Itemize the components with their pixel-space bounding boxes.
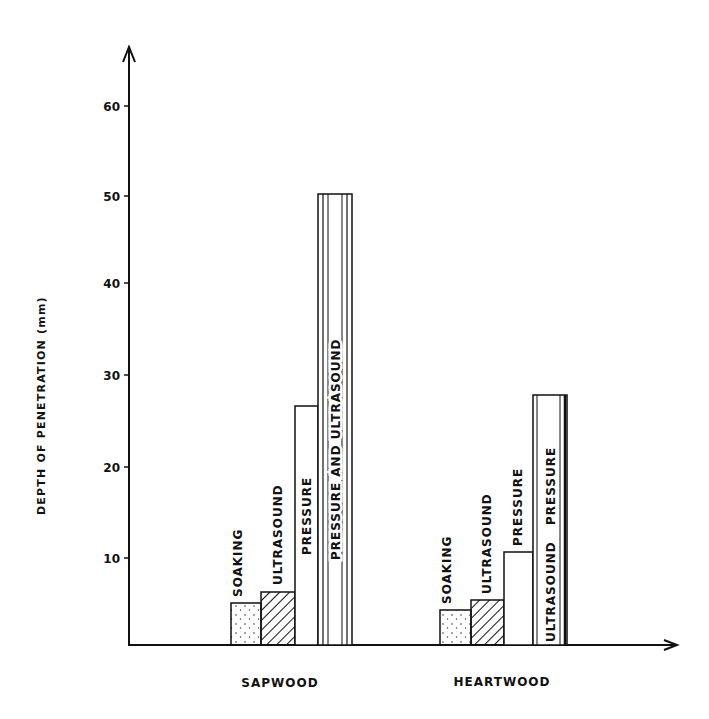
y-tick-label: 30 [103, 369, 120, 383]
bar-label: SOAKING [440, 536, 454, 604]
group-sapwood: SOAKING ULTRASOUND PRESSURE PRESSURE AND… [231, 194, 352, 645]
bar-label: ULTRASOUND [271, 484, 285, 585]
x-axis: SAPWOOD HEARTWOOD [128, 640, 677, 690]
bar-label: SOAKING [231, 529, 245, 597]
category-label-heartwood: HEARTWOOD [453, 675, 550, 689]
bar-heartwood-ultrasound [471, 600, 504, 645]
bar-label: PRESSURE [511, 468, 525, 546]
y-axis-title: DEPTH OF PENETRATION (mm) [35, 296, 48, 515]
y-tick-label: 50 [103, 190, 120, 204]
bar-heartwood-pressure [504, 552, 533, 645]
bar-label: PRESSURE [544, 447, 558, 525]
bar-sapwood-ultrasound [261, 592, 295, 645]
bar-label: PRESSURE AND ULTRASOUND [329, 338, 343, 560]
y-axis: 10 20 30 40 50 60 DEPTH OF PENETRATION (… [35, 47, 135, 645]
category-label-sapwood: SAPWOOD [241, 676, 318, 690]
y-tick-label: 40 [103, 277, 120, 291]
bar-sapwood-soaking [231, 603, 261, 645]
y-tick-label: 60 [103, 100, 120, 114]
bar-label: PRESSURE [300, 477, 314, 555]
group-heartwood: SOAKING ULTRASOUND PRESSURE ULTRASOUND P… [440, 395, 567, 645]
bar-label: ULTRASOUND [544, 541, 558, 642]
y-tick-label: 20 [103, 461, 120, 475]
y-tick-label: 10 [103, 552, 120, 566]
bar-heartwood-soaking [440, 610, 471, 645]
bar-chart: 10 20 30 40 50 60 DEPTH OF PENETRATION (… [0, 0, 709, 719]
bar-label: ULTRASOUND [480, 493, 494, 594]
